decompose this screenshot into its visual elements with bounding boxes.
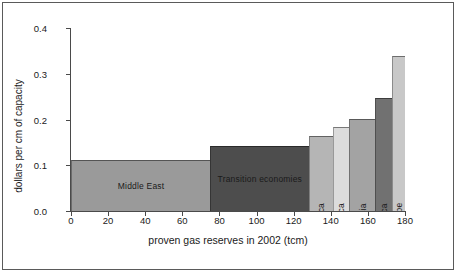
y-tick-mark <box>66 74 71 75</box>
y-tick-mark <box>66 28 71 29</box>
x-tick-label: 20 <box>103 215 114 226</box>
bar-label: OECD Europe <box>394 203 404 211</box>
x-tick-mark <box>368 211 369 216</box>
x-tick-mark <box>219 211 220 216</box>
x-tick-label: 0 <box>68 215 73 226</box>
chart-frame: dollars per cm of capacity proven gas re… <box>2 2 454 270</box>
bar-middle-east[interactable]: Middle East <box>71 160 210 211</box>
x-tick-label: 160 <box>360 215 376 226</box>
x-tick-mark <box>405 211 406 216</box>
y-tick-label: 0.2 <box>7 114 47 125</box>
y-tick-label: 0.3 <box>7 68 47 79</box>
plot-area: Middle EastTransition economiesAfricaLat… <box>71 28 405 211</box>
bar-label: Latin America <box>336 203 346 211</box>
bar-oecd-north-america[interactable]: OECD North America <box>375 98 392 211</box>
x-tick-label: 140 <box>323 215 339 226</box>
x-tick-label: 80 <box>214 215 225 226</box>
x-tick-label: 60 <box>177 215 188 226</box>
x-tick-mark <box>331 211 332 216</box>
y-tick-label: 0.4 <box>7 23 47 34</box>
x-tick-label: 180 <box>397 215 413 226</box>
bar-transition-economies[interactable]: Transition economies <box>210 146 308 211</box>
bar-label: OECD North America <box>379 203 389 211</box>
bar-oecd-europe[interactable]: OECD Europe <box>392 56 405 211</box>
bar-label: Asia <box>358 203 368 211</box>
x-tick-mark <box>145 211 146 216</box>
x-tick-label: 40 <box>140 215 151 226</box>
x-tick-label: 120 <box>286 215 302 226</box>
x-axis-label: proven gas reserves in 2002 (tcm) <box>3 234 453 246</box>
x-tick-mark <box>108 211 109 216</box>
x-tick-mark <box>71 211 72 216</box>
x-tick-mark <box>182 211 183 216</box>
bar-label: Transition economies <box>218 174 302 184</box>
y-tick-label: 0.0 <box>7 206 47 217</box>
bar-label: Africa <box>316 203 326 211</box>
bar-africa[interactable]: Africa <box>309 136 333 211</box>
bar-label: Middle East <box>118 181 165 191</box>
bar-asia[interactable]: Asia <box>349 119 375 211</box>
y-tick-mark <box>66 165 71 166</box>
y-axis-label: dollars per cm of capacity <box>13 79 24 192</box>
x-tick-label: 100 <box>249 215 265 226</box>
y-tick-mark <box>66 120 71 121</box>
bar-latin-america[interactable]: Latin America <box>333 127 350 211</box>
x-axis-line <box>70 211 406 212</box>
x-tick-mark <box>257 211 258 216</box>
x-tick-mark <box>294 211 295 216</box>
y-tick-label: 0.1 <box>7 160 47 171</box>
